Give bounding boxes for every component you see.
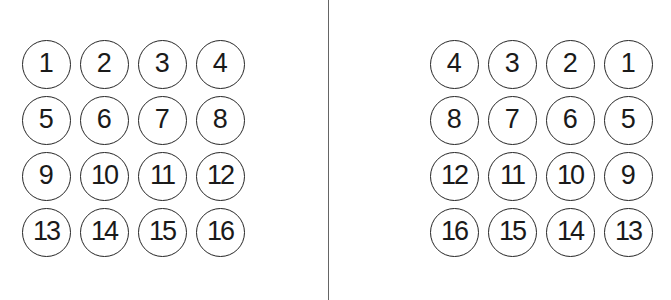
numbered-circle-7[interactable]: 7 [138,96,187,145]
grid-cell: 12 [191,148,249,204]
numbered-circle-9[interactable]: 9 [604,152,653,201]
grid-cell: 5 [17,92,75,148]
left-circle-grid: 12345678910111213141516 [17,36,249,260]
grid-cell: 5 [599,92,657,148]
numbered-circle-11[interactable]: 11 [488,152,537,201]
circle-number-label: 5 [39,106,54,133]
grid-cell: 14 [541,204,599,260]
vertical-divider-line [328,0,329,300]
circle-number-label: 10 [557,162,583,189]
grid-cell: 8 [425,92,483,148]
circle-number-label: 16 [207,218,233,245]
circle-number-label: 3 [155,50,170,77]
numbered-circle-3[interactable]: 3 [138,40,187,89]
circle-number-label: 6 [97,106,112,133]
numbered-circle-8[interactable]: 8 [196,96,245,145]
circle-number-label: 13 [33,218,59,245]
grid-cell: 13 [599,204,657,260]
grid-cell: 6 [541,92,599,148]
grid-cell: 4 [191,36,249,92]
numbered-circle-5[interactable]: 5 [604,96,653,145]
numbered-circle-7[interactable]: 7 [488,96,537,145]
right-circle-grid: 43218765121110916151413 [425,36,657,260]
circle-number-label: 7 [505,106,520,133]
numbered-circle-15[interactable]: 15 [488,208,537,257]
circle-number-label: 11 [150,162,174,189]
grid-cell: 2 [75,36,133,92]
grid-cell: 14 [75,204,133,260]
numbered-circle-16[interactable]: 16 [196,208,245,257]
circle-number-label: 10 [91,162,117,189]
circle-number-label: 12 [441,162,467,189]
grid-cell: 4 [425,36,483,92]
numbered-circle-13[interactable]: 13 [604,208,653,257]
numbered-circle-12[interactable]: 12 [196,152,245,201]
circle-number-label: 6 [563,106,578,133]
numbered-circle-14[interactable]: 14 [546,208,595,257]
grid-cell: 2 [541,36,599,92]
circle-number-label: 9 [621,162,636,189]
numbered-circle-1[interactable]: 1 [604,40,653,89]
circle-number-label: 4 [447,50,462,77]
numbered-circle-2[interactable]: 2 [546,40,595,89]
circle-number-label: 14 [557,218,583,245]
grid-cell: 15 [483,204,541,260]
grid-cell: 1 [599,36,657,92]
grid-cell: 6 [75,92,133,148]
grid-cell: 1 [17,36,75,92]
circle-number-label: 13 [615,218,641,245]
circle-number-label: 5 [621,106,636,133]
circle-number-label: 14 [91,218,117,245]
numbered-circle-10[interactable]: 10 [80,152,129,201]
circle-number-label: 8 [213,106,228,133]
grid-cell: 10 [541,148,599,204]
numbered-circle-9[interactable]: 9 [22,152,71,201]
figure-canvas: 12345678910111213141516 4321876512111091… [0,0,671,300]
numbered-circle-6[interactable]: 6 [80,96,129,145]
grid-cell: 13 [17,204,75,260]
numbered-circle-6[interactable]: 6 [546,96,595,145]
grid-cell: 11 [133,148,191,204]
numbered-circle-5[interactable]: 5 [22,96,71,145]
grid-cell: 15 [133,204,191,260]
circle-number-label: 1 [39,50,54,77]
grid-cell: 7 [483,92,541,148]
circle-number-label: 15 [149,218,175,245]
numbered-circle-10[interactable]: 10 [546,152,595,201]
circle-number-label: 7 [155,106,170,133]
numbered-circle-12[interactable]: 12 [430,152,479,201]
circle-number-label: 11 [500,162,524,189]
numbered-circle-16[interactable]: 16 [430,208,479,257]
grid-cell: 16 [425,204,483,260]
numbered-circle-13[interactable]: 13 [22,208,71,257]
circle-number-label: 3 [505,50,520,77]
grid-cell: 16 [191,204,249,260]
circle-number-label: 2 [97,50,112,77]
circle-number-label: 2 [563,50,578,77]
grid-cell: 11 [483,148,541,204]
circle-number-label: 9 [39,162,54,189]
numbered-circle-4[interactable]: 4 [430,40,479,89]
grid-cell: 9 [599,148,657,204]
grid-cell: 9 [17,148,75,204]
numbered-circle-1[interactable]: 1 [22,40,71,89]
numbered-circle-8[interactable]: 8 [430,96,479,145]
grid-cell: 10 [75,148,133,204]
numbered-circle-2[interactable]: 2 [80,40,129,89]
numbered-circle-3[interactable]: 3 [488,40,537,89]
grid-cell: 8 [191,92,249,148]
numbered-circle-11[interactable]: 11 [138,152,187,201]
grid-cell: 3 [483,36,541,92]
circle-number-label: 12 [207,162,233,189]
circle-number-label: 1 [621,50,636,77]
numbered-circle-15[interactable]: 15 [138,208,187,257]
circle-number-label: 4 [213,50,228,77]
numbered-circle-14[interactable]: 14 [80,208,129,257]
numbered-circle-4[interactable]: 4 [196,40,245,89]
grid-cell: 7 [133,92,191,148]
circle-number-label: 8 [447,106,462,133]
grid-cell: 12 [425,148,483,204]
circle-number-label: 16 [441,218,467,245]
circle-number-label: 15 [499,218,525,245]
grid-cell: 3 [133,36,191,92]
